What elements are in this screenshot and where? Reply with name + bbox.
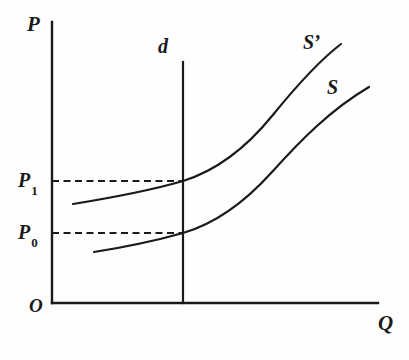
p1-base: P xyxy=(18,169,30,191)
origin-label: O xyxy=(29,296,43,315)
supply-shifted-letter: S xyxy=(303,31,314,53)
demand-curve-label: d xyxy=(158,36,168,56)
price-level-p0-label: P0 xyxy=(18,222,37,246)
price-level-p1-label: P1 xyxy=(18,170,37,194)
chart-canvas xyxy=(0,0,409,360)
supply-shifted-prime: ’ xyxy=(314,31,321,53)
x-axis-label: Q xyxy=(378,313,393,334)
supply-curve-label: S xyxy=(327,77,338,97)
p0-base: P xyxy=(18,221,30,243)
supply-demand-figure: P Q O d S’ S P1 P0 xyxy=(0,0,409,360)
p1-subscript: 1 xyxy=(31,183,38,198)
p0-subscript: 0 xyxy=(31,235,38,250)
y-axis-label: P xyxy=(27,14,40,35)
supply-shifted-curve-label: S’ xyxy=(303,32,321,52)
supply-curve-original xyxy=(94,87,369,252)
